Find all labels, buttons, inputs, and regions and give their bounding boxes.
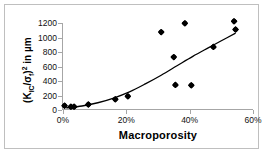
plot-area [63, 23, 253, 110]
x-tick-mark [190, 110, 191, 114]
y-tick-mark [58, 96, 62, 97]
x-tick-label: 60% [233, 115, 264, 125]
x-tick-label: 40% [170, 115, 210, 125]
x-tick-mark [253, 110, 254, 114]
y-tick-mark [58, 23, 62, 24]
x-tick-mark [126, 110, 127, 114]
trendline [63, 23, 253, 110]
y-tick-mark [58, 38, 62, 39]
chart-frame: 020040060080010001200 0%20%40%60% (KIC/σ… [4, 4, 259, 149]
y-tick-mark [58, 81, 62, 82]
x-tick-label: 0% [43, 115, 83, 125]
y-axis-title: (KIC/σf)2 in µm [21, 15, 35, 125]
y-tick-mark [58, 110, 62, 111]
x-tick-label: 20% [106, 115, 146, 125]
y-axis-title-wrap: (KIC/σf)2 in µm [13, 23, 29, 110]
x-tick-mark [63, 110, 64, 114]
chart-screenshot: 020040060080010001200 0%20%40%60% (KIC/σ… [0, 0, 264, 153]
y-tick-mark [58, 52, 62, 53]
x-axis-title: Macroporosity [63, 129, 253, 141]
y-tick-mark [58, 67, 62, 68]
